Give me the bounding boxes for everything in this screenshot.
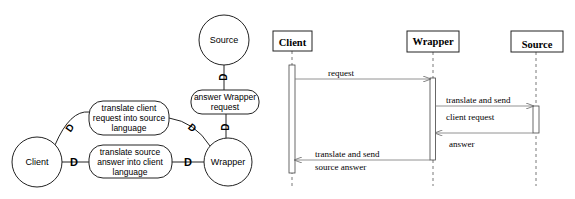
connector-marker-icon: D bbox=[186, 121, 199, 134]
svg-text:translate and send: translate and send bbox=[446, 95, 511, 105]
svg-text:request into source: request into source bbox=[93, 113, 166, 123]
svg-text:answer: answer bbox=[449, 139, 475, 149]
message-translate-send-source-answer: translate and send source answer bbox=[295, 149, 430, 172]
process-answer-wrapper-request: answer Wrapper request bbox=[191, 90, 259, 114]
node-client: Client bbox=[12, 137, 62, 187]
connector-marker-icon: D bbox=[184, 156, 192, 168]
svg-text:Client: Client bbox=[279, 37, 307, 48]
message-translate-send-client-request: translate and send client request bbox=[436, 95, 534, 122]
connector-marker-icon: D bbox=[218, 73, 229, 80]
figure-canvas: D D D D D D Source Wrapper Client bbox=[0, 0, 575, 199]
activation-source bbox=[533, 106, 539, 133]
participant-client: Client bbox=[273, 31, 312, 51]
svg-text:D: D bbox=[70, 156, 78, 168]
node-wrapper-label: Wrapper bbox=[211, 157, 245, 167]
svg-text:request: request bbox=[211, 102, 240, 112]
svg-text:D: D bbox=[184, 156, 192, 168]
svg-text:language: language bbox=[113, 167, 148, 177]
process-translate-client-request: translate client request into source lan… bbox=[89, 101, 169, 135]
svg-text:D: D bbox=[63, 122, 76, 134]
svg-text:D: D bbox=[218, 73, 229, 80]
process-translate-source-answer: translate source answer into client lang… bbox=[89, 145, 172, 178]
node-source-label: Source bbox=[210, 35, 239, 45]
svg-text:request: request bbox=[328, 68, 354, 78]
participant-wrapper: Wrapper bbox=[407, 31, 459, 52]
svg-text:Wrapper: Wrapper bbox=[412, 36, 454, 47]
svg-text:answer Wrapper: answer Wrapper bbox=[194, 92, 256, 102]
connector-marker-icon: D bbox=[220, 123, 231, 130]
svg-text:Source: Source bbox=[522, 39, 553, 50]
svg-text:language: language bbox=[112, 123, 147, 133]
process-diagram: D D D D D D Source Wrapper Client bbox=[12, 15, 259, 187]
svg-text:translate and send: translate and send bbox=[315, 149, 380, 159]
activation-client bbox=[289, 65, 295, 173]
node-source: Source bbox=[199, 15, 249, 65]
message-request: request bbox=[295, 68, 430, 79]
sequence-diagram: Client Wrapper Source request translate … bbox=[273, 31, 563, 188]
connector-marker-icon: D bbox=[63, 122, 76, 134]
node-wrapper: Wrapper bbox=[204, 138, 252, 186]
svg-text:D: D bbox=[186, 121, 199, 134]
activation-wrapper bbox=[430, 78, 436, 160]
svg-text:source answer: source answer bbox=[315, 162, 366, 172]
svg-text:answer into client: answer into client bbox=[97, 157, 163, 167]
svg-text:D: D bbox=[220, 123, 231, 130]
svg-text:translate source: translate source bbox=[100, 147, 161, 157]
connector-marker-icon: D bbox=[70, 156, 78, 168]
node-client-label: Client bbox=[25, 157, 49, 167]
svg-text:client request: client request bbox=[446, 112, 495, 122]
participant-source: Source bbox=[511, 31, 563, 52]
svg-text:translate client: translate client bbox=[102, 103, 157, 113]
message-answer: answer bbox=[436, 133, 534, 149]
